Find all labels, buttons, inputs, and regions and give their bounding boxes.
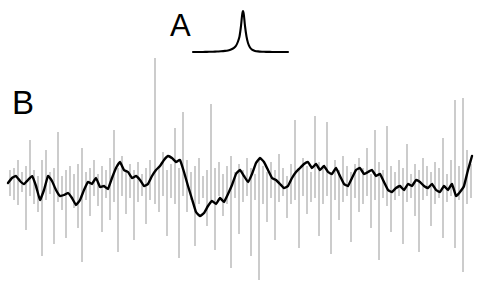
panel-a-peak-curve: [193, 11, 288, 52]
panel-b-label: B: [12, 86, 34, 119]
panel-a-label: A: [170, 10, 191, 41]
figure-canvas: A B: [0, 0, 482, 289]
panel-a-plot: [193, 11, 288, 52]
figure-plot-area: [0, 0, 482, 289]
